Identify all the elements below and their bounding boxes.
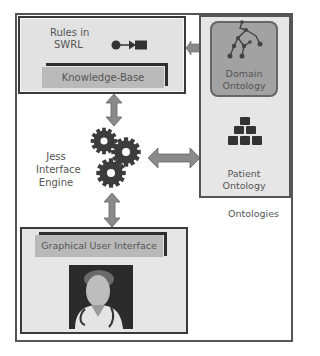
jess-label-line2: Interface (36, 163, 76, 176)
rules-label-line1: Rules in (50, 27, 89, 39)
domain-ontology-label: Domain Ontology (210, 68, 278, 92)
gui-label: Graphical User Interface (35, 235, 163, 257)
rule-arrow-icon (110, 38, 150, 52)
gears-icon (88, 124, 148, 192)
rules-label: Rules in SWRL (50, 27, 89, 51)
engine-gui-arrow (104, 193, 120, 227)
domain-label-line2: Ontology (210, 80, 278, 92)
engine-ontology-arrow (148, 148, 200, 168)
doctor-avatar-icon (69, 265, 133, 329)
rules-label-line2: SWRL (50, 39, 89, 51)
domain-label-line1: Domain (210, 68, 278, 80)
tree-graph-icon (222, 20, 268, 66)
kb-bar-shadow-side (165, 63, 168, 86)
jess-label-line1: Jess (36, 150, 76, 163)
knowledge-base-label: Knowledge-Base (42, 67, 164, 88)
kb-engine-arrow (106, 94, 122, 126)
gui-bar-shadow-side (164, 232, 167, 256)
patient-label-line1: Patient (210, 168, 278, 180)
jess-engine-label: Jess Interface Engine (36, 150, 76, 189)
patient-label-line2: Ontology (210, 180, 278, 192)
jess-label-line3: Engine (36, 176, 76, 189)
folder-pyramid-icon (226, 116, 264, 150)
patient-ontology-label: Patient Ontology (210, 168, 278, 192)
kb-bar-shadow (46, 63, 168, 66)
ontologies-group-label: Ontologies (228, 208, 279, 219)
